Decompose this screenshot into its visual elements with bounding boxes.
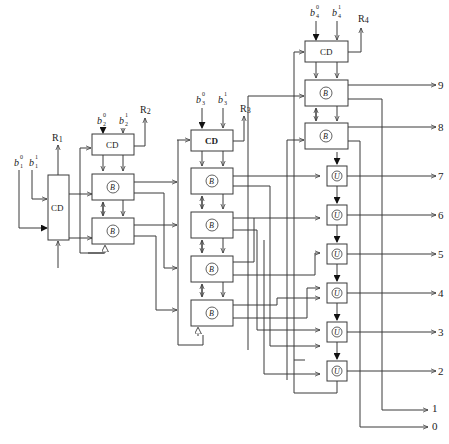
output-6: 6 (438, 209, 444, 221)
svg-text:CD: CD (51, 203, 64, 213)
svg-text:1: 1 (338, 4, 341, 10)
result-r2: R2 (140, 104, 151, 116)
output-3: 3 (438, 326, 444, 338)
u-cell-6: U (327, 205, 347, 225)
svg-text:0: 0 (103, 112, 106, 118)
result-r3: R3 (240, 103, 251, 115)
svg-text:B: B (110, 227, 115, 236)
result-r1: R1 (52, 132, 63, 144)
svg-text:b: b (218, 94, 223, 105)
svg-text:0: 0 (202, 91, 205, 97)
svg-text:4: 4 (316, 13, 319, 19)
svg-text:CD: CD (106, 140, 119, 150)
svg-text:B: B (209, 177, 214, 186)
svg-text:B: B (323, 132, 328, 141)
svg-text:CD: CD (205, 136, 218, 146)
svg-text:4: 4 (338, 13, 341, 19)
stage-2: b02 b12 CD R2 B B (88, 104, 151, 253)
output-2: 2 (438, 365, 444, 377)
svg-text:1: 1 (224, 91, 227, 97)
svg-text:3: 3 (202, 100, 205, 106)
u-cell-2: U (327, 361, 347, 381)
svg-text:3: 3 (224, 100, 227, 106)
svg-text:1: 1 (35, 163, 38, 169)
circuit-diagram: b01 b11 CD R1 b02 b12 CD R2 B (0, 0, 449, 444)
svg-text:b: b (29, 157, 34, 168)
output-7: 7 (438, 170, 444, 182)
input-b1-0: b01 (14, 154, 23, 169)
output-9: 9 (438, 79, 444, 91)
output-0: 0 (432, 420, 438, 432)
output-labels: 9 8 7 6 5 4 3 2 1 0 (432, 79, 444, 432)
u-cell-4: U (327, 283, 347, 303)
svg-text:b: b (332, 7, 337, 18)
svg-text:1: 1 (35, 154, 38, 160)
svg-text:B: B (209, 309, 214, 318)
svg-text:b: b (310, 7, 315, 18)
output-4: 4 (438, 287, 444, 299)
svg-text:B: B (110, 183, 115, 192)
svg-text:1: 1 (20, 163, 23, 169)
svg-text:B: B (323, 89, 328, 98)
input-b1-1: b11 (29, 154, 38, 169)
output-1: 1 (432, 402, 438, 414)
stage-4: b04 b14 CD R4 B B U (294, 4, 436, 427)
svg-text:CD: CD (320, 47, 333, 57)
svg-text:0: 0 (316, 4, 319, 10)
svg-text:b: b (196, 94, 201, 105)
svg-text:b: b (14, 157, 19, 168)
svg-text:2: 2 (103, 121, 106, 127)
u-cell-3: U (327, 322, 347, 342)
stage-3: b03 b13 CD R3 B B B B (191, 91, 251, 336)
svg-text:1: 1 (125, 112, 128, 118)
svg-text:b: b (97, 115, 102, 126)
svg-text:B: B (209, 265, 214, 274)
svg-text:B: B (209, 221, 214, 230)
u-cell-7: U (327, 166, 347, 186)
svg-text:0: 0 (20, 154, 23, 160)
svg-text:b: b (119, 115, 124, 126)
output-8: 8 (438, 121, 444, 133)
output-5: 5 (438, 248, 444, 260)
u-cell-5: U (327, 244, 347, 264)
result-r4: R4 (358, 13, 369, 25)
svg-text:2: 2 (125, 121, 128, 127)
